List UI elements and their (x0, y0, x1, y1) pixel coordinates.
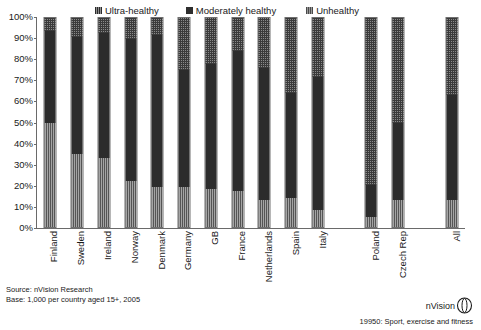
y-axis-tick-label: 50% (0, 118, 33, 128)
bar-segment (152, 18, 163, 35)
bar-slot (278, 17, 305, 228)
bar-segment (125, 39, 136, 181)
chart-legend: Ultra-healthy Moderately healthy Unhealt… (95, 4, 395, 16)
bars-container (37, 17, 465, 228)
bar-slot (64, 17, 91, 228)
bar-segment (205, 189, 216, 227)
stacked-bar[interactable] (44, 17, 57, 228)
y-axis-tick-label: 20% (0, 181, 33, 191)
stacked-bar[interactable] (365, 17, 378, 228)
x-axis-tick-label: Denmark (157, 212, 167, 251)
y-axis-tick-label: 10% (0, 202, 33, 212)
stacked-bar[interactable] (124, 17, 137, 228)
bar-segment (232, 18, 243, 51)
x-axis-label-slot: GB (197, 231, 224, 289)
stacked-bar[interactable] (151, 17, 164, 228)
stacked-bar[interactable] (258, 17, 271, 228)
x-axis-tick-label: Italy (318, 222, 328, 239)
bar-slot (385, 17, 412, 228)
x-axis-tick-label: GB (210, 224, 220, 238)
bar-segment (446, 95, 457, 200)
legend-label-moderately-healthy: Moderately healthy (196, 5, 276, 16)
x-axis-tick-label: France (237, 216, 247, 246)
bar-segment (446, 18, 457, 95)
legend-label-unhealthy: Unhealthy (316, 5, 359, 16)
legend-label-ultra-healthy: Ultra-healthy (105, 5, 159, 16)
stacked-bar[interactable] (178, 17, 191, 228)
stacked-bar[interactable] (392, 17, 405, 228)
bar-slot (171, 17, 198, 228)
x-axis-tick-label: Spain (291, 219, 301, 243)
bar-segment (259, 18, 270, 68)
y-axis-tick-label: 70% (0, 76, 33, 86)
bar-segment (232, 51, 243, 191)
bar-segment (179, 70, 190, 187)
bar-segment (72, 37, 83, 154)
bar-segment (205, 18, 216, 64)
bar-slot-spacer (331, 17, 358, 228)
y-axis-tick-label: 80% (0, 54, 33, 64)
stacked-bar[interactable] (204, 17, 217, 228)
bar-slot (198, 17, 225, 228)
legend-item-unhealthy: Unhealthy (306, 5, 359, 16)
x-axis-label-slot (411, 231, 438, 289)
x-axis-label-slot: Finland (36, 231, 63, 289)
bar-slot (91, 17, 118, 228)
stacked-bar[interactable] (285, 17, 298, 228)
x-axis-tick-label: All (452, 226, 462, 237)
x-axis-label-slot: Germany (170, 231, 197, 289)
stacked-bar[interactable] (231, 17, 244, 228)
stacked-bar[interactable] (97, 17, 110, 228)
bar-segment (45, 31, 56, 123)
moderately-healthy-swatch-icon (186, 7, 193, 14)
bar-slot (144, 17, 171, 228)
bar-slot-spacer (412, 17, 439, 228)
bar-slot (305, 17, 332, 228)
x-axis-label-slot: Netherlands (251, 231, 278, 289)
bar-segment (446, 200, 457, 227)
x-axis-labels: FinlandSwedenIrelandNorwayDenmarkGermany… (36, 231, 465, 289)
bar-segment (45, 123, 56, 228)
source-line-1: Source: nVision Research (6, 285, 140, 295)
nvision-ring-logo-icon (456, 297, 473, 314)
x-axis-tick-label: Finland (49, 215, 59, 246)
chart-page: Ultra-healthy Moderately healthy Unhealt… (0, 0, 481, 330)
stacked-bar[interactable] (445, 17, 458, 228)
bar-segment (366, 18, 377, 185)
bar-segment (72, 18, 83, 37)
x-axis-tick-label: Netherlands (264, 205, 274, 256)
x-axis-label-slot: Ireland (90, 231, 117, 289)
brand-logo: nVision (426, 297, 473, 314)
x-axis-label-slot: Norway (116, 231, 143, 289)
stacked-bar[interactable] (71, 17, 84, 228)
bar-segment (98, 33, 109, 158)
x-axis-tick-label: Sweden (76, 214, 86, 248)
brand-name: nVision (426, 301, 455, 311)
footnote: 19950: Sport, exercise and fitness (360, 317, 473, 326)
bar-segment (179, 18, 190, 70)
x-axis-label-slot: Spain (277, 231, 304, 289)
x-axis-label-slot: Denmark (143, 231, 170, 289)
x-axis-label-slot: Sweden (63, 231, 90, 289)
ultra-healthy-swatch-icon (95, 7, 102, 14)
bar-segment (98, 18, 109, 33)
x-axis-tick-label: Poland (371, 216, 381, 246)
bar-segment (393, 18, 404, 123)
bar-slot (117, 17, 144, 228)
y-axis-tick-mark (34, 228, 37, 229)
x-axis-label-slot (331, 231, 358, 289)
x-axis-label-slot: France (224, 231, 251, 289)
x-axis-label-slot: Czech Rep (385, 231, 412, 289)
bar-slot (37, 17, 64, 228)
y-axis-tick-label: 90% (0, 33, 33, 43)
bar-slot (251, 17, 278, 228)
bar-segment (259, 68, 270, 200)
y-axis-tick-label: 0% (0, 223, 33, 233)
bar-segment (45, 18, 56, 31)
bar-segment (312, 77, 323, 211)
stacked-bar[interactable] (311, 17, 324, 228)
bar-segment (125, 18, 136, 39)
y-axis-tick-label: 100% (0, 12, 33, 22)
plot-area: 0%10%20%30%40%50%60%70%80%90%100% (36, 17, 465, 229)
bar-segment (152, 35, 163, 188)
